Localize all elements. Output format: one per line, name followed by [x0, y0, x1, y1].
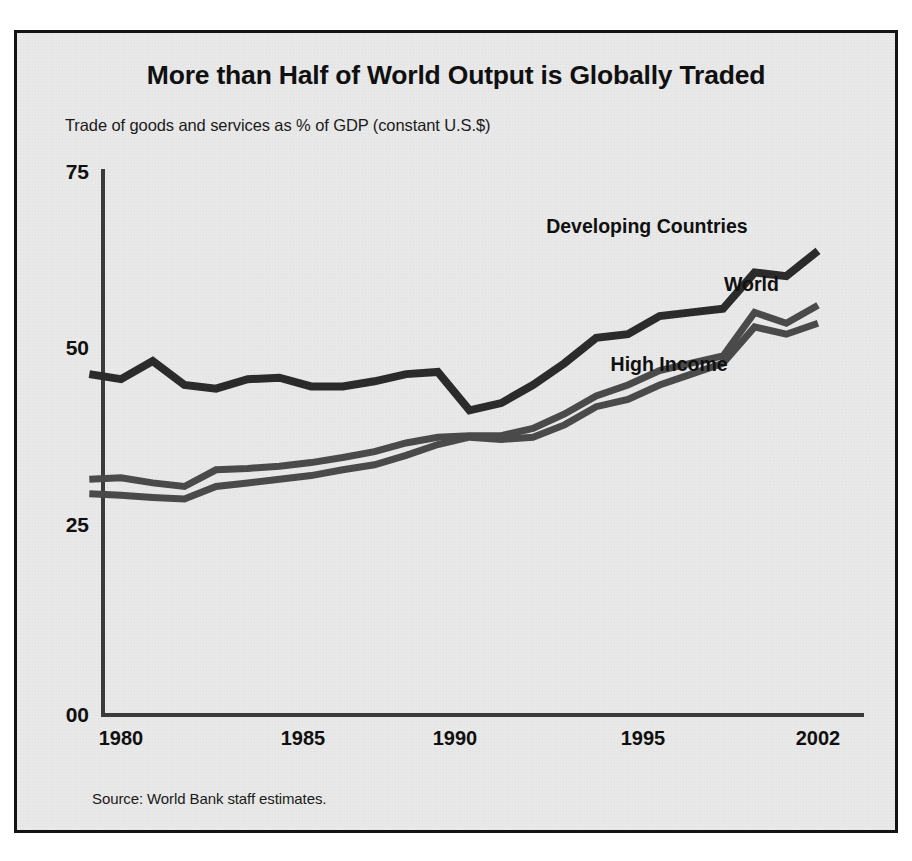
- x-tick-label-2002: 2002: [796, 727, 841, 749]
- y-tick-label-75: 75: [66, 160, 90, 183]
- series-line-high-income: [89, 323, 818, 499]
- source-note: Source: World Bank staff estimates.: [92, 790, 326, 807]
- series-label-developing-countries: Developing Countries: [546, 215, 748, 237]
- x-tick-label-1985: 1985: [281, 727, 326, 749]
- series-label-world: World: [724, 273, 779, 295]
- y-tick-label-50: 50: [66, 336, 89, 359]
- x-tick-label-1995: 1995: [621, 727, 666, 749]
- y-tick-label-00: 00: [66, 703, 89, 726]
- y-tick-label-25: 25: [66, 513, 90, 536]
- series-label-high-income: High Income: [611, 353, 728, 375]
- x-tick-label-1990: 1990: [433, 727, 478, 749]
- chart-subtitle: Trade of goods and services as % of GDP …: [65, 116, 490, 135]
- series-line-developing-countries: [89, 251, 818, 411]
- chart-title: More than Half of World Output is Global…: [17, 60, 895, 91]
- x-tick-label-1980: 1980: [99, 727, 144, 749]
- figure-page: More than Half of World Output is Global…: [0, 0, 912, 861]
- line-chart-plot: 75 50 25 00 1980 1985 1990 1995 2002 Dev…: [17, 33, 901, 836]
- chart-panel: More than Half of World Output is Global…: [14, 30, 898, 833]
